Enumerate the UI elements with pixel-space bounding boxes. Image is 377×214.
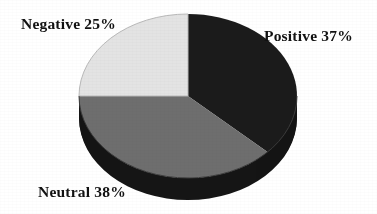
pie-chart-screenshot: Negative 25% Positive 37% Neutral 38% bbox=[0, 0, 377, 214]
chart-area: Negative 25% Positive 37% Neutral 38% bbox=[0, 0, 377, 214]
slice-label-positive: Positive 37% bbox=[264, 28, 353, 44]
slice-label-neutral: Neutral 38% bbox=[38, 184, 126, 200]
slice-label-negative: Negative 25% bbox=[21, 16, 116, 32]
